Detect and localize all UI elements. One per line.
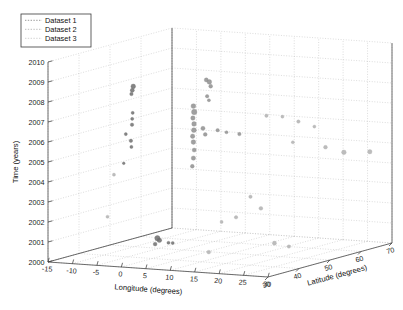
- data-point: [272, 241, 276, 245]
- ticklabel-time: 2006: [29, 138, 45, 147]
- ticklabel-time: 2004: [29, 178, 45, 187]
- data-point: [201, 126, 205, 130]
- axis-title-time: Time (years): [11, 140, 20, 183]
- data-point: [368, 150, 372, 154]
- axis-title-latitude: Latitude (degrees): [306, 263, 368, 288]
- data-point: [192, 122, 197, 127]
- data-point: [291, 141, 294, 144]
- data-point: [130, 92, 133, 95]
- data-point: [192, 109, 197, 114]
- data-point: [171, 241, 174, 244]
- legend-label-2[interactable]: Dataset 2: [45, 25, 77, 34]
- data-point: [167, 241, 170, 244]
- data-point: [259, 206, 263, 210]
- data-point: [153, 242, 157, 246]
- data-point: [249, 195, 252, 198]
- scatter3d-canvas: 2000200120022003200420052006200720082009…: [0, 0, 403, 310]
- data-point: [324, 145, 328, 149]
- data-point: [209, 84, 213, 88]
- ticklabel-latitude: 40: [292, 271, 302, 282]
- ticklabel-time: 2009: [29, 78, 45, 87]
- data-point: [265, 114, 268, 117]
- data-point: [203, 132, 207, 136]
- ticklabel-longitude: 10: [165, 273, 174, 283]
- data-point: [281, 115, 284, 118]
- data-point: [207, 99, 210, 102]
- data-point: [207, 80, 212, 85]
- data-point: [191, 128, 196, 133]
- data-point: [129, 139, 132, 142]
- data-point: [220, 220, 223, 223]
- data-point: [131, 111, 134, 114]
- axis-title-longitude: Longitude (degrees): [114, 282, 183, 296]
- ticklabel-longitude: 20: [214, 276, 223, 286]
- ticklabel-time: 2007: [29, 118, 45, 127]
- data-point: [216, 128, 219, 131]
- data-point: [297, 120, 300, 123]
- data-point: [130, 88, 134, 92]
- ticklabel-longitude: 15: [190, 274, 199, 284]
- ticklabel-longitude: 5: [143, 271, 148, 280]
- ticklabel-time: 2005: [29, 158, 45, 167]
- data-point: [112, 173, 115, 176]
- data-point: [191, 156, 195, 160]
- ticklabel-longitude: -5: [93, 268, 100, 277]
- ticklabel-time: 2001: [29, 238, 45, 247]
- data-point: [124, 133, 127, 136]
- data-point: [225, 131, 228, 134]
- data-point: [191, 140, 196, 145]
- data-point: [130, 123, 133, 126]
- ticklabel-longitude: -10: [66, 266, 77, 276]
- data-point: [130, 145, 133, 148]
- data-point: [207, 250, 211, 254]
- ticklabel-time: 2008: [29, 98, 45, 107]
- data-point: [342, 150, 347, 155]
- figure-root: 2000200120022003200420052006200720082009…: [0, 0, 403, 310]
- data-point: [191, 116, 195, 120]
- ticklabel-longitude: 0: [118, 269, 123, 278]
- data-point: [190, 164, 194, 168]
- legend[interactable]: Dataset 1Dataset 2Dataset 3: [21, 14, 91, 47]
- data-point: [131, 117, 134, 120]
- data-point: [192, 148, 196, 152]
- data-point: [287, 245, 290, 248]
- data-point: [190, 134, 194, 138]
- ticklabel-latitude: 70: [385, 245, 395, 256]
- data-point: [157, 238, 162, 243]
- legend-label-1[interactable]: Dataset 1: [45, 16, 77, 25]
- ticklabel-time: 2002: [29, 218, 45, 227]
- left-wall: [48, 28, 172, 262]
- ticklabel-time: 2010: [29, 58, 45, 67]
- data-point: [313, 125, 316, 128]
- data-point: [122, 162, 125, 165]
- data-point: [238, 132, 241, 135]
- plot-walls: [48, 28, 392, 277]
- ticklabel-longitude: -15: [42, 264, 53, 274]
- data-point: [131, 84, 136, 89]
- ticklabel-time: 2003: [29, 198, 45, 207]
- data-point: [205, 94, 208, 97]
- data-point: [234, 216, 237, 219]
- data-point: [106, 215, 109, 218]
- data-point: [191, 104, 196, 109]
- legend-label-3[interactable]: Dataset 3: [45, 34, 77, 43]
- ticklabel-longitude: 25: [238, 278, 247, 288]
